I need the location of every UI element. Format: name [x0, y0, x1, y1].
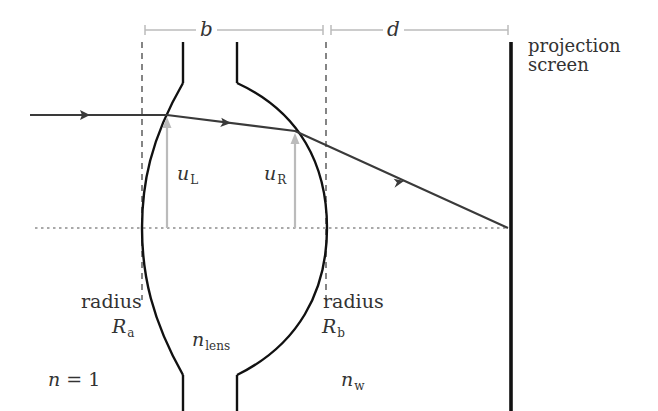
u-right-label: uR	[264, 164, 286, 183]
projection-screen-label-line2: screen	[528, 55, 621, 74]
n-air-value: = 1	[60, 368, 100, 390]
radius-b-label: Rb	[322, 317, 345, 336]
n-air-label: n = 1	[48, 370, 100, 389]
n-lens-label: nlens	[192, 330, 230, 349]
radius-b-word: radius	[323, 292, 384, 311]
dimension-b	[145, 25, 323, 35]
radius-a-subscript: a	[127, 326, 134, 340]
u-left-subscript: L	[190, 173, 198, 187]
n-w-symbol: n	[341, 368, 353, 390]
radius-b-symbol: R	[322, 315, 336, 337]
thick-lens	[142, 42, 327, 411]
u-right-arrow	[291, 133, 300, 228]
u-left-arrow	[163, 117, 172, 228]
n-w-label: nw	[341, 370, 365, 389]
lens-left-surface	[142, 83, 183, 375]
u-left-symbol: u	[177, 162, 189, 184]
dimension-b-label: b	[196, 19, 217, 39]
lens-right-surface	[237, 83, 327, 375]
n-lens-symbol: n	[192, 328, 204, 350]
dimension-d-label: d	[383, 19, 404, 39]
radius-a-symbol: R	[112, 315, 126, 337]
radius-a-label: Ra	[112, 317, 134, 336]
thick-lens-diagram: b d projection screen uL uR radius Ra ra…	[0, 0, 658, 411]
n-lens-subscript: lens	[205, 339, 230, 353]
dimension-d	[331, 25, 508, 35]
n-air-symbol: n	[48, 368, 60, 390]
radius-a-word: radius	[81, 292, 142, 311]
u-right-subscript: R	[277, 173, 286, 187]
n-w-subscript: w	[354, 379, 364, 393]
projection-screen-label-line1: projection	[528, 36, 621, 55]
projection-screen-label: projection screen	[528, 36, 621, 74]
u-left-label: uL	[177, 164, 198, 183]
radius-b-subscript: b	[337, 326, 345, 340]
u-right-symbol: u	[264, 162, 276, 184]
